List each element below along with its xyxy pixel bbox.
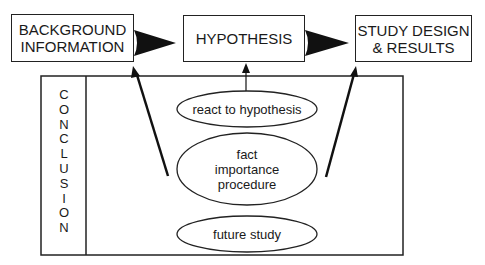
- ellipse-future-label: future study: [177, 225, 317, 243]
- box-hypothesis: HYPOTHESIS: [183, 15, 305, 62]
- box-study-design: STUDY DESIGN & RESULTS: [355, 15, 472, 62]
- arrow-fact-to-study: [326, 74, 354, 177]
- conclusion-label: C O N C L U S I O N: [43, 88, 85, 236]
- box-hypothesis-label: HYPOTHESIS: [196, 30, 293, 47]
- ellipse-fact-label: fact importance procedure: [177, 145, 317, 193]
- box-background-label: BACKGROUND INFORMATION: [19, 21, 127, 55]
- arrow-hypothesis-to-study: [305, 30, 349, 56]
- arrow-fact-to-background: [137, 75, 168, 176]
- ellipse-react-label: react to hypothesis: [177, 100, 317, 118]
- arrow-background-to-hypothesis: [134, 30, 176, 56]
- box-background-information: BACKGROUND INFORMATION: [11, 14, 134, 62]
- box-study-label: STUDY DESIGN & RESULTS: [357, 22, 469, 56]
